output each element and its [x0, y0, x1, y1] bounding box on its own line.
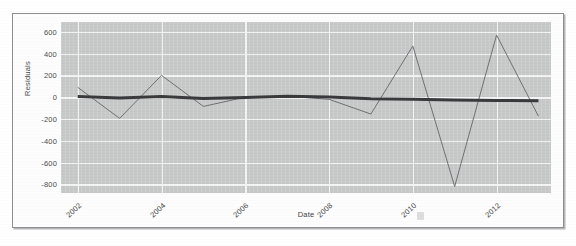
- y-tick-label: -600: [41, 158, 57, 167]
- y-tick-label: 200: [44, 71, 57, 80]
- y-tick-label: -800: [41, 180, 57, 189]
- y-tick-label: -200: [41, 114, 57, 123]
- plot-area: [61, 22, 551, 193]
- series-line: [78, 96, 539, 100]
- y-tick-label: -400: [41, 136, 57, 145]
- series-line: [78, 35, 539, 186]
- y-tick-label: 0: [53, 93, 57, 102]
- residuals-chart: Residuals 6004002000-200-400-600-800 200…: [13, 14, 563, 227]
- x-axis-title: Date: [61, 210, 551, 219]
- y-tick-label: 400: [44, 49, 57, 58]
- scan-artifact: [417, 212, 424, 220]
- series-layer: [61, 22, 551, 193]
- figure-frame: Residuals 6004002000-200-400-600-800 200…: [12, 13, 564, 228]
- y-axis-tick-labels: 6004002000-200-400-600-800: [29, 22, 57, 193]
- y-tick-label: 600: [44, 27, 57, 36]
